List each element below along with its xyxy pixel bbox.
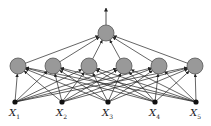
- input-hidden-edge: [55, 74, 62, 102]
- input-label: X2: [56, 107, 67, 120]
- input-label-subscript: 3: [109, 113, 113, 120]
- input-hidden-edge: [60, 70, 108, 102]
- input-label-subscript: 5: [197, 113, 201, 120]
- input-node: [193, 99, 198, 104]
- input-label-subscript: 1: [16, 113, 20, 120]
- hidden-node: [151, 58, 167, 74]
- input-hidden-edge: [25, 69, 108, 102]
- input-hidden-edge: [15, 74, 17, 102]
- input-label-subscript: 2: [63, 113, 67, 120]
- hidden-node: [10, 58, 26, 74]
- input-label: X1: [9, 107, 20, 120]
- input-label-subscript: 4: [156, 113, 160, 120]
- input-node: [12, 99, 17, 104]
- input-hidden-edge: [165, 72, 196, 102]
- hidden-node: [81, 58, 97, 74]
- input-node: [59, 99, 64, 104]
- output-node: [98, 25, 114, 41]
- neural-network-diagram: X1X2X3X4X5: [0, 0, 211, 126]
- input-label: X5: [190, 107, 201, 120]
- input-node: [105, 99, 110, 104]
- hidden-node: [116, 58, 132, 74]
- input-hidden-edge: [195, 74, 196, 102]
- input-hidden-edge: [155, 74, 158, 102]
- input-node: [152, 99, 157, 104]
- input-label: X3: [102, 107, 113, 120]
- input-hidden-edge: [15, 69, 82, 102]
- hidden-node: [45, 58, 61, 74]
- input-label: X4: [149, 107, 160, 120]
- hidden-node: [187, 58, 203, 74]
